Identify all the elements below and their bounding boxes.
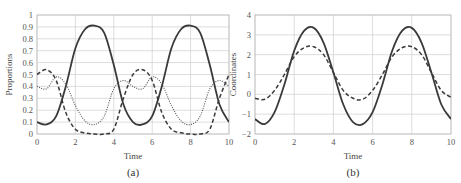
x-tick-label: 6 bbox=[150, 137, 154, 147]
x-axis-label: Time bbox=[124, 151, 143, 161]
y-tick-label: 2 bbox=[247, 50, 251, 60]
series-line-dashed bbox=[37, 69, 229, 134]
figure: 00.10.20.30.40.50.60.70.80.910246810Time… bbox=[0, 0, 461, 183]
y-tick-label: 4 bbox=[247, 10, 252, 20]
y-tick-label: 1 bbox=[247, 70, 251, 80]
y-tick-label: 0 bbox=[29, 129, 33, 139]
x-tick-label: 0 bbox=[253, 137, 257, 147]
x-axis-label: Time bbox=[344, 151, 363, 161]
x-tick-label: 2 bbox=[292, 137, 296, 147]
x-tick-label: 8 bbox=[410, 137, 414, 147]
y-tick-label: 0.3 bbox=[22, 93, 33, 103]
y-tick-label: 1 bbox=[29, 10, 33, 20]
x-tick-label: 10 bbox=[447, 137, 456, 147]
panel-caption: (a) bbox=[127, 166, 140, 179]
y-tick-label: −2 bbox=[242, 129, 251, 139]
y-tick-label: 0.7 bbox=[22, 46, 33, 56]
y-tick-label: −1 bbox=[242, 109, 251, 119]
y-tick-label: 0.2 bbox=[22, 105, 33, 115]
series-line-dashed bbox=[255, 46, 451, 100]
x-tick-label: 2 bbox=[73, 137, 77, 147]
y-tick-label: 3 bbox=[247, 30, 251, 40]
y-tick-label: 0.4 bbox=[22, 81, 33, 91]
y-tick-label: 0.1 bbox=[22, 117, 33, 127]
chart-panel-a: 00.10.20.30.40.50.60.70.80.910246810Time… bbox=[4, 10, 233, 179]
x-tick-label: 6 bbox=[370, 137, 374, 147]
x-tick-label: 8 bbox=[188, 137, 192, 147]
y-tick-label: 0.9 bbox=[22, 22, 33, 32]
x-tick-label: 0 bbox=[35, 137, 39, 147]
chart-panel-b: −2−1012340246810TimeCoordinates(b) bbox=[228, 10, 455, 179]
y-tick-label: 0.5 bbox=[22, 70, 33, 80]
y-axis-label: Proportions bbox=[4, 53, 14, 96]
y-tick-label: 0.8 bbox=[22, 34, 33, 44]
x-tick-label: 10 bbox=[225, 137, 234, 147]
y-tick-label: 0 bbox=[247, 89, 251, 99]
y-axis-label: Coordinates bbox=[228, 52, 238, 96]
x-tick-label: 4 bbox=[112, 137, 117, 147]
y-tick-label: 0.6 bbox=[22, 58, 33, 68]
x-tick-label: 4 bbox=[331, 137, 336, 147]
panel-caption: (b) bbox=[347, 166, 360, 179]
